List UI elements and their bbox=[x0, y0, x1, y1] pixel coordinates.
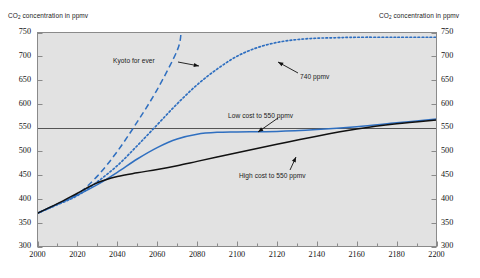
annotation-low-cost-to-550-ppmv: Low cost to 550 ppmv bbox=[228, 112, 293, 119]
y-axis-label-right-400: 400 bbox=[441, 194, 467, 203]
y-axis-label-right-500: 500 bbox=[441, 146, 467, 155]
y-axis-label-left-350: 350 bbox=[5, 218, 31, 227]
y-axis-label-right-600: 600 bbox=[441, 99, 467, 108]
x-axis-label-2200: 2200 bbox=[420, 250, 454, 259]
x-axis-label-2120: 2120 bbox=[260, 250, 294, 259]
y-axis-label-left-450: 450 bbox=[5, 170, 31, 179]
y-axis-label-right-700: 700 bbox=[441, 51, 467, 60]
y-axis-label-left-550: 550 bbox=[5, 122, 31, 131]
y-axis-label-right-450: 450 bbox=[441, 170, 467, 179]
annotation-kyoto-for-ever: Kyoto for ever bbox=[113, 57, 155, 64]
co2-projection-chart bbox=[0, 0, 480, 278]
y-axis-label-left-400: 400 bbox=[5, 194, 31, 203]
x-axis-label-2180: 2180 bbox=[380, 250, 414, 259]
x-axis-label-2060: 2060 bbox=[140, 250, 174, 259]
y-axis-label-left-650: 650 bbox=[5, 75, 31, 84]
y-axis-label-left-600: 600 bbox=[5, 99, 31, 108]
x-axis-label-2040: 2040 bbox=[100, 250, 134, 259]
x-axis-label-2140: 2140 bbox=[300, 250, 334, 259]
x-axis-label-2000: 2000 bbox=[21, 250, 55, 259]
x-axis-label-2080: 2080 bbox=[180, 250, 214, 259]
plot-background bbox=[37, 32, 437, 247]
annotation-high-cost-to-550-ppmv: High cost to 550 ppmv bbox=[239, 172, 306, 179]
x-axis-label-2100: 2100 bbox=[220, 250, 254, 259]
y-axis-label-right-350: 350 bbox=[441, 218, 467, 227]
y-axis-label-right-750: 750 bbox=[441, 27, 467, 36]
y-axis-label-right-300: 300 bbox=[441, 241, 467, 250]
annotation-740-ppmv: 740 ppmv bbox=[300, 73, 329, 80]
y-axis-label-right-650: 650 bbox=[441, 75, 467, 84]
y-axis-label-right-550: 550 bbox=[441, 122, 467, 131]
y-axis-label-left-750: 750 bbox=[5, 27, 31, 36]
x-axis-label-2160: 2160 bbox=[340, 250, 374, 259]
x-axis-label-2020: 2020 bbox=[60, 250, 94, 259]
y-axis-label-left-700: 700 bbox=[5, 51, 31, 60]
y-axis-label-left-500: 500 bbox=[5, 146, 31, 155]
y-axis-label-left-300: 300 bbox=[5, 241, 31, 250]
